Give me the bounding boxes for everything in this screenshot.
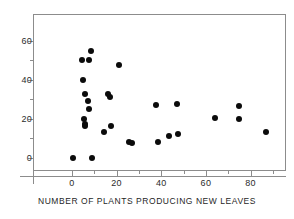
y-axis-tick-minor (30, 60, 33, 61)
scatter-plot-figure: 0204060020406080 NUMBER OF PLANTS PRODUC… (0, 0, 294, 219)
x-axis-tick-label: 0 (57, 178, 87, 188)
x-axis-tick-major (117, 171, 118, 176)
y-axis-tick-label: 40 (8, 75, 32, 85)
x-axis-title: NUMBER OF PLANTS PRODUCING NEW LEAVES (0, 196, 294, 206)
y-axis-tick-label: 20 (8, 114, 32, 124)
x-axis-tick-label: 80 (236, 178, 266, 188)
x-axis-tick-label: 40 (146, 178, 176, 188)
x-axis-tick-major (72, 171, 73, 176)
y-axis-line (33, 14, 34, 184)
x-axis-tick-minor (94, 171, 95, 174)
y-axis-tick-label: 0 (8, 153, 32, 163)
x-axis-tick-minor (228, 171, 229, 174)
x-axis-tick-minor (139, 171, 140, 174)
x-axis-tick-minor (273, 171, 274, 174)
plot-frame (33, 14, 286, 171)
y-axis-tick-minor (30, 138, 33, 139)
x-axis-tick-label: 60 (191, 178, 221, 188)
y-axis-tick-minor (30, 99, 33, 100)
x-axis-tick-minor (184, 171, 185, 174)
x-axis-tick-major (161, 171, 162, 176)
x-axis-line (20, 176, 286, 177)
x-axis-tick-major (251, 171, 252, 176)
x-axis-tick-label: 20 (102, 178, 132, 188)
y-axis-tick-label: 60 (8, 36, 32, 46)
x-axis-tick-major (206, 171, 207, 176)
